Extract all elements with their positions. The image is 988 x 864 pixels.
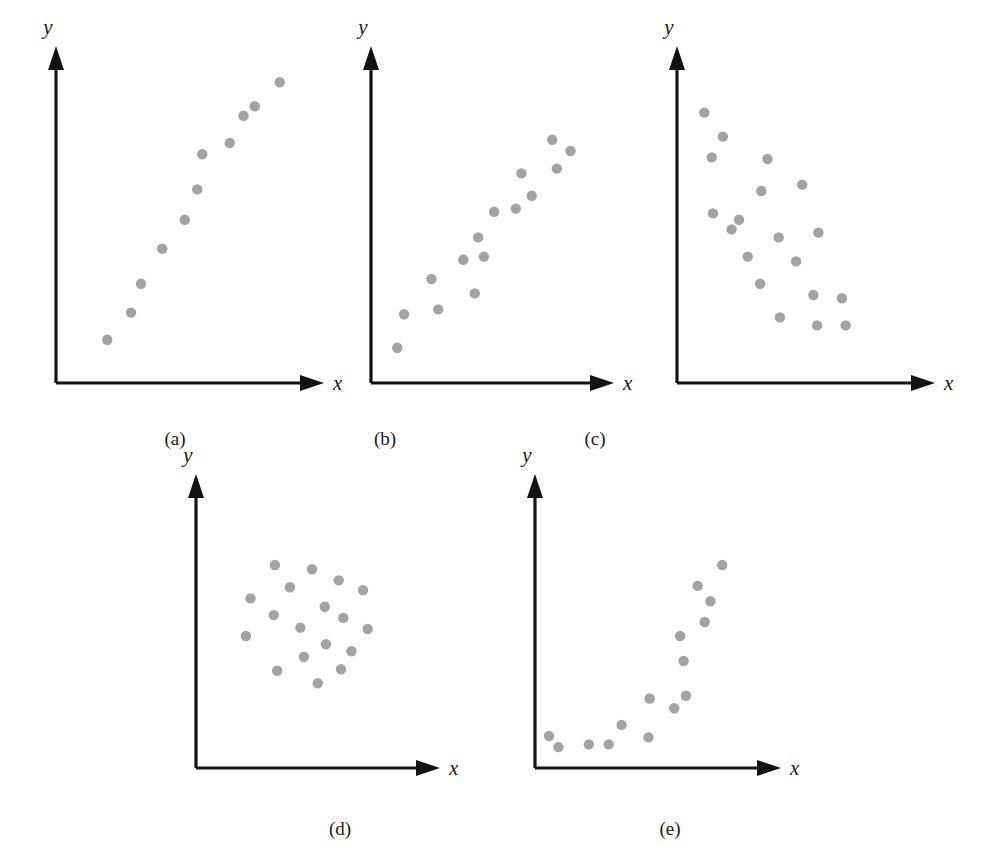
data-point <box>718 131 728 141</box>
data-point <box>473 232 483 242</box>
axes-e <box>527 474 781 776</box>
y-axis-arrowhead-a <box>48 46 64 70</box>
data-point <box>791 256 801 266</box>
data-point <box>644 693 654 703</box>
scatterplot-panel-b: y x <box>345 40 645 400</box>
scatterplot-panel-c: y x <box>655 40 955 400</box>
data-point <box>565 146 575 156</box>
data-point <box>726 224 736 234</box>
data-point <box>773 232 783 242</box>
y-axis-label-c: y <box>662 15 674 39</box>
data-point <box>250 101 260 111</box>
data-point <box>511 203 521 213</box>
data-point <box>399 309 409 319</box>
x-axis-label-e: x <box>789 756 800 780</box>
x-axis-arrowhead-b <box>590 375 614 391</box>
data-point <box>544 731 554 741</box>
data-point <box>313 678 323 688</box>
data-point <box>241 631 251 641</box>
data-point <box>553 742 563 752</box>
scatterplot-panel-e: y x <box>511 468 811 788</box>
data-point <box>708 208 718 218</box>
data-point <box>102 335 112 345</box>
data-point <box>742 251 752 261</box>
y-axis-label-b: y <box>356 15 368 39</box>
axes-d <box>188 474 440 776</box>
data-point <box>299 652 309 662</box>
x-axis-label-a: x <box>332 371 343 395</box>
data-point <box>358 585 368 595</box>
data-point <box>840 320 850 330</box>
data-point <box>547 135 557 145</box>
data-point <box>837 293 847 303</box>
data-point <box>126 307 136 317</box>
data-point <box>699 107 709 117</box>
x-axis-arrowhead-a <box>300 375 324 391</box>
data-point <box>678 656 688 666</box>
data-point <box>336 664 346 674</box>
scatterplot-panel-d: y x <box>172 468 472 788</box>
x-axis-arrowhead-d <box>416 760 440 776</box>
data-point <box>734 215 744 225</box>
data-point <box>616 720 626 730</box>
data-point <box>762 154 772 164</box>
data-points-d <box>241 560 373 689</box>
panel-caption-b: (b) <box>355 428 415 450</box>
data-point <box>669 703 679 713</box>
panel-caption-a: (a) <box>145 428 205 450</box>
data-point <box>812 320 822 330</box>
data-point <box>470 288 480 298</box>
scatterplot-svg-b: y x <box>345 40 645 400</box>
data-point <box>527 191 537 201</box>
data-point <box>136 279 146 289</box>
y-axis-arrowhead-b <box>363 46 379 70</box>
y-axis-arrowhead-e <box>527 474 543 498</box>
panel-caption-c: (c) <box>565 428 625 450</box>
y-axis-arrowhead-c <box>669 46 685 70</box>
data-point <box>426 274 436 284</box>
scatterplot-svg-a: y x <box>30 40 330 400</box>
x-axis-arrowhead-c <box>911 375 935 391</box>
data-point <box>307 564 317 574</box>
data-point <box>808 290 818 300</box>
data-points-b <box>392 135 576 353</box>
data-points-a <box>102 77 285 345</box>
data-point <box>705 596 715 606</box>
data-point <box>338 613 348 623</box>
data-point <box>489 207 499 217</box>
y-axis-arrowhead-d <box>188 474 204 498</box>
x-axis-label-b: x <box>622 371 633 395</box>
data-point <box>681 691 691 701</box>
y-axis-label-a: y <box>41 15 53 39</box>
data-point <box>604 739 614 749</box>
data-point <box>270 560 280 570</box>
data-point <box>516 168 526 178</box>
data-point <box>479 251 489 261</box>
data-point <box>295 622 305 632</box>
data-point <box>699 617 709 627</box>
data-point <box>584 739 594 749</box>
x-axis-label-c: x <box>943 371 954 395</box>
data-point <box>269 610 279 620</box>
data-point <box>180 215 190 225</box>
scatterplot-panel-a: y x <box>30 40 330 400</box>
data-point <box>643 732 653 742</box>
panel-caption-e: (e) <box>640 818 700 840</box>
scatterplot-svg-c: y x <box>655 40 955 400</box>
data-point <box>275 77 285 87</box>
data-point <box>157 243 167 253</box>
data-point <box>458 255 468 265</box>
data-point <box>192 184 202 194</box>
cropped-top-text <box>60 0 920 4</box>
data-point <box>320 602 330 612</box>
axes-c <box>669 46 935 391</box>
data-point <box>245 593 255 603</box>
data-point <box>797 179 807 189</box>
data-point <box>392 343 402 353</box>
data-points-e <box>544 560 728 752</box>
data-point <box>707 152 717 162</box>
data-point <box>692 581 702 591</box>
data-point <box>755 279 765 289</box>
data-point <box>333 575 343 585</box>
data-point <box>272 666 282 676</box>
